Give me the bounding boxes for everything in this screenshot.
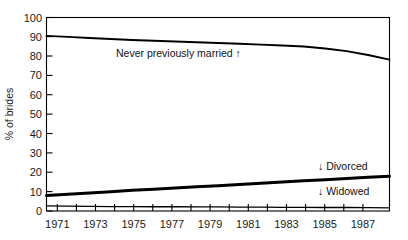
series-line-widowed <box>47 206 390 208</box>
y-tick-label: 30 <box>30 147 42 159</box>
y-tick-label: 40 <box>30 128 42 140</box>
annotation-label-widowed: ↓ Widowed <box>318 185 370 197</box>
x-tick-label: 1971 <box>45 218 69 230</box>
y-tick-label: 100 <box>24 12 42 24</box>
series-group <box>47 36 390 208</box>
x-tick-label: 1979 <box>198 218 222 230</box>
x-tick-label: 1983 <box>274 218 298 230</box>
x-tick-label: 1975 <box>121 218 145 230</box>
x-tick-label: 1987 <box>351 218 375 230</box>
y-tick-label: 60 <box>30 89 42 101</box>
annotation-divorced: ↓ Divorced <box>318 160 368 172</box>
x-tick-label: 1973 <box>83 218 107 230</box>
y-tick-label: 0 <box>36 205 42 217</box>
annotation-never-previously-married: Never previously married ↑ <box>116 47 241 59</box>
x-tick-label: 1985 <box>312 218 336 230</box>
y-tick-label: 90 <box>30 31 42 43</box>
y-tick-label: 80 <box>30 50 42 62</box>
chart-canvas: 0 10 20 30 40 50 60 70 80 90 100 % of br… <box>0 0 408 240</box>
y-tick-label: 10 <box>30 186 42 198</box>
y-tick-label: 20 <box>30 166 42 178</box>
annotation-widowed: ↓ Widowed <box>318 185 370 197</box>
y-tick-label: 70 <box>30 69 42 81</box>
annotation-label-never-previously-married: Never previously married ↑ <box>116 47 241 59</box>
x-tick-label: 1981 <box>236 218 260 230</box>
y-axis-labels: 0 10 20 30 40 50 60 70 80 90 100 <box>24 12 42 218</box>
x-axis-labels: 1971 1973 1975 1977 1979 1981 1983 1985 … <box>45 218 375 230</box>
x-tick-label: 1977 <box>160 218 184 230</box>
y-tick-label: 50 <box>30 108 42 120</box>
annotation-label-divorced: ↓ Divorced <box>318 160 368 172</box>
y-axis-ticks <box>47 18 53 212</box>
line-chart: · · · · 0 10 20 30 40 50 60 70 <box>0 0 408 240</box>
y-axis-title: % of brides <box>3 88 15 141</box>
